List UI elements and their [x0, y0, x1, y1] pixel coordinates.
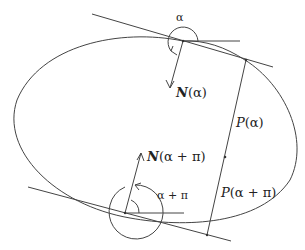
normal-alpha-plus-pi-arg: (α + π) [159, 149, 206, 164]
alpha-plus-pi-label: α + π [157, 190, 188, 201]
chord-upper-endpoint [245, 59, 247, 61]
chord-midpoint [224, 156, 227, 159]
lower-inner-arc [131, 200, 139, 213]
p-alpha-arg: (α) [245, 115, 264, 130]
diagram-canvas: α N(α) P(α) N(α + π) α + π P(α + π) [0, 0, 305, 250]
chord-lower-endpoint [206, 234, 208, 236]
normal-alpha-plus-pi-vector [125, 153, 141, 213]
normal-alpha-arg: (α) [188, 85, 207, 100]
p-alpha-symbol: P [236, 115, 245, 130]
p-alpha-plus-pi-symbol: P [221, 185, 230, 200]
lower-support-point [124, 212, 126, 214]
normal-alpha-plus-pi-label: N(α + π) [147, 150, 206, 163]
p-alpha-plus-pi-arg: (α + π) [230, 185, 277, 200]
normal-alpha-symbol: N [176, 85, 188, 100]
alpha-plus-pi-arc-arrow-icon [135, 183, 141, 190]
width-chord [207, 60, 246, 235]
normal-alpha-plus-pi-arrowhead-icon [137, 153, 144, 161]
upper-support-point [182, 40, 184, 42]
alpha-label: α [176, 12, 183, 23]
normal-alpha-plus-pi-symbol: N [147, 149, 159, 164]
p-alpha-label: P(α) [236, 116, 264, 129]
p-alpha-plus-pi-label: P(α + π) [221, 186, 276, 199]
normal-alpha-label: N(α) [176, 86, 207, 99]
alpha-arc-arrow-icon [171, 46, 177, 55]
alpha-plus-pi-angle-arc [109, 185, 163, 239]
